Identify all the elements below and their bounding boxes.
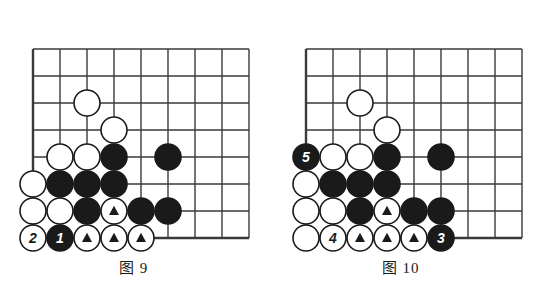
white-stone-disc (74, 144, 100, 170)
white-stone-marked (347, 225, 373, 251)
black-stone-disc (155, 144, 181, 170)
white-stone-disc (347, 90, 373, 116)
black-stone (428, 144, 454, 170)
black-stone: 1 (47, 225, 73, 251)
white-stone (47, 198, 73, 224)
black-stone-disc (101, 144, 127, 170)
white-stone (74, 90, 100, 116)
white-stone (320, 198, 346, 224)
black-stone-disc (428, 198, 454, 224)
board-grid-svg: 21 (0, 0, 267, 260)
white-stone (20, 171, 46, 197)
white-stone-disc (74, 90, 100, 116)
figure-10-container: 435 图 10 (267, 0, 534, 286)
white-stone: 2 (20, 225, 46, 251)
black-stone (47, 171, 73, 197)
black-stone-disc (374, 144, 400, 170)
black-stone (155, 198, 181, 224)
white-stone-disc (20, 171, 46, 197)
black-stone (128, 198, 154, 224)
black-stone (74, 198, 100, 224)
white-stone-disc (293, 225, 319, 251)
black-stone-disc (401, 198, 427, 224)
go-board-figure-9: 21 (0, 0, 267, 260)
white-stone-marked (74, 225, 100, 251)
black-stone-disc (155, 198, 181, 224)
white-stone-disc (47, 198, 73, 224)
figure-9-caption: 图 9 (0, 256, 267, 277)
black-stone (320, 171, 346, 197)
stone-move-number: 4 (328, 230, 337, 246)
white-stone (20, 198, 46, 224)
white-stone-disc (20, 198, 46, 224)
white-stone (320, 144, 346, 170)
black-stone-disc (428, 144, 454, 170)
white-stone-disc (47, 144, 73, 170)
white-stone (74, 144, 100, 170)
white-stone (347, 90, 373, 116)
white-stone-disc (374, 117, 400, 143)
black-stone: 5 (293, 144, 319, 170)
black-stone (74, 171, 100, 197)
black-stone-disc (128, 198, 154, 224)
go-diagram-pair: 21 图 9 435 图 10 (0, 0, 534, 286)
white-stone-marked (101, 198, 127, 224)
black-stone-disc (374, 171, 400, 197)
figure-9-container: 21 图 9 (0, 0, 267, 286)
white-stone-marked (401, 225, 427, 251)
white-stone-disc (101, 117, 127, 143)
white-stone (293, 225, 319, 251)
white-stone (47, 144, 73, 170)
white-stone-disc (293, 198, 319, 224)
black-stone (374, 171, 400, 197)
stone-move-number: 2 (28, 230, 37, 246)
black-stone (428, 198, 454, 224)
white-stone (293, 171, 319, 197)
white-stone-disc (320, 198, 346, 224)
white-stone-marked (374, 198, 400, 224)
black-stone (101, 144, 127, 170)
white-stone (347, 144, 373, 170)
black-stone (374, 144, 400, 170)
black-stone-disc (320, 171, 346, 197)
black-stone-disc (74, 171, 100, 197)
stone-move-number: 3 (437, 230, 445, 246)
black-stone (155, 144, 181, 170)
stones-layer: 435 (293, 90, 454, 251)
black-stone: 3 (428, 225, 454, 251)
black-stone-disc (47, 171, 73, 197)
white-stone: 4 (320, 225, 346, 251)
white-stone (374, 117, 400, 143)
white-stone (101, 117, 127, 143)
black-stone-disc (74, 198, 100, 224)
stone-move-number: 1 (56, 230, 64, 246)
white-stone-disc (347, 144, 373, 170)
black-stone (101, 171, 127, 197)
white-stone-disc (320, 144, 346, 170)
board-grid-svg: 435 (267, 0, 534, 260)
white-stone (293, 198, 319, 224)
white-stone-marked (374, 225, 400, 251)
white-stone-disc (293, 171, 319, 197)
white-stone-marked (101, 225, 127, 251)
black-stone (347, 171, 373, 197)
black-stone-disc (101, 171, 127, 197)
figure-10-caption: 图 10 (267, 256, 534, 277)
black-stone-disc (347, 171, 373, 197)
black-stone-disc (347, 198, 373, 224)
stone-move-number: 5 (302, 149, 310, 165)
white-stone-marked (128, 225, 154, 251)
black-stone (347, 198, 373, 224)
black-stone (401, 198, 427, 224)
go-board-figure-10: 435 (267, 0, 534, 260)
stones-layer: 21 (20, 90, 181, 251)
